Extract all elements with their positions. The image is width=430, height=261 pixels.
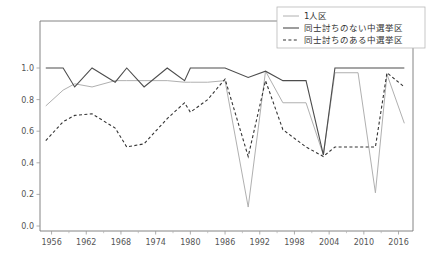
x-tick-label: 1956 xyxy=(41,238,61,247)
y-tick-label: 1.0 xyxy=(21,64,34,73)
x-tick-label: 1992 xyxy=(250,238,270,247)
chart-figure: 0.00.20.40.60.81.0 195619621968197419801… xyxy=(0,0,430,261)
axes xyxy=(40,21,413,231)
line-chart: 0.00.20.40.60.81.0 195619621968197419801… xyxy=(0,0,430,261)
y-tick-label: 0.4 xyxy=(21,159,34,168)
x-tick-label: 2010 xyxy=(354,238,374,247)
x-tick-label: 2016 xyxy=(388,238,408,247)
y-tick-label: 0.2 xyxy=(21,190,34,199)
axes-frame xyxy=(40,21,413,231)
chart-legend: 1人区同士討ちのない中選挙区同士討ちのある中選挙区 xyxy=(277,7,425,48)
legend-label-3: 同士討ちのある中選挙区 xyxy=(304,35,403,45)
x-axis-ticks: 1956196219681974198019861992199820042010… xyxy=(41,231,408,247)
y-tick-label: 0.0 xyxy=(21,222,34,231)
x-tick-label: 1974 xyxy=(145,238,165,247)
y-tick-label: 0.6 xyxy=(21,127,34,136)
x-tick-label: 1962 xyxy=(76,238,96,247)
x-tick-label: 1986 xyxy=(215,238,235,247)
x-tick-label: 1980 xyxy=(180,238,200,247)
y-axis-ticks: 0.00.20.40.60.81.0 xyxy=(21,64,40,231)
legend-label-1: 1人区 xyxy=(304,11,327,21)
x-tick-label: 1968 xyxy=(111,238,131,247)
y-tick-label: 0.8 xyxy=(21,96,34,105)
x-tick-label: 2004 xyxy=(319,238,339,247)
x-tick-label: 1998 xyxy=(284,238,304,247)
legend-label-2: 同士討ちのない中選挙区 xyxy=(304,23,403,33)
data-series-group xyxy=(46,68,405,207)
series-line-1 xyxy=(46,71,405,207)
